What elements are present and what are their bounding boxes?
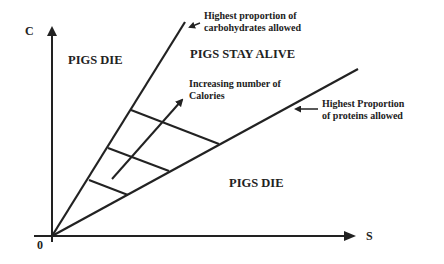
origin-label: 0 (37, 238, 43, 252)
region-label-bottom-right: PIGS DIE (229, 176, 284, 190)
y-axis-label: C (25, 24, 34, 38)
calories-annotation-line2: Calories (189, 90, 225, 101)
carbohydrate-pointer-arrow (190, 23, 200, 27)
calorie-level-line-1 (89, 180, 128, 195)
x-axis-arrow-icon (344, 231, 356, 241)
calorie-level-lines (89, 110, 219, 195)
x-axis (34, 231, 356, 241)
carbohydrate-annotation-line1: Highest proportion of (204, 10, 297, 21)
y-axis (47, 26, 57, 242)
calories-annotation-line1: Increasing number of (189, 78, 282, 89)
region-label-top-left: PIGS DIE (68, 53, 123, 67)
protein-annotation-line1: Highest Proportion (322, 98, 405, 109)
protein-annotation-line2: of proteins allowed (322, 110, 403, 121)
y-axis-arrow-icon (47, 26, 57, 36)
calorie-level-line-3 (131, 110, 219, 144)
carbohydrate-annotation-line2: carbohydrates allowed (204, 22, 301, 33)
increasing-calories-arrow (112, 100, 182, 179)
pig-diet-diagram: C S 0 PIGS DIE PIGS STAY ALIVE PIGS DIE … (0, 0, 444, 264)
x-axis-label: S (366, 229, 373, 243)
region-label-middle: PIGS STAY ALIVE (190, 47, 295, 61)
calorie-level-line-2 (108, 148, 169, 171)
